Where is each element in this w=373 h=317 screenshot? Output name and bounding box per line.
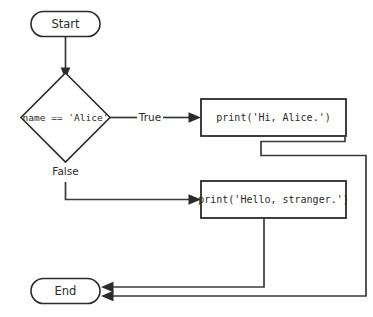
arrowhead-left-icon: [101, 282, 114, 292]
edge-print-hi-to-end: [101, 137, 366, 301]
print-hi-label: print('Hi, Alice.'): [216, 112, 330, 123]
edge-decision-false: [66, 148, 202, 205]
node-decision[interactable]: name == 'Alice': [21, 73, 110, 162]
arrowhead-right-icon: [189, 112, 202, 122]
edge-label-false-group: False: [52, 165, 78, 177]
node-start[interactable]: Start: [31, 12, 100, 37]
decision-label: name == 'Alice': [23, 112, 109, 123]
edge-label-false: False: [52, 165, 78, 177]
node-print-hello[interactable]: print('Hello, stranger.'): [198, 181, 349, 218]
start-label: Start: [51, 17, 80, 31]
end-label: End: [55, 284, 77, 298]
flowchart-canvas: Start name == 'Alice' print('Hi, Alice.'…: [0, 0, 373, 317]
edge-label-true-group: True: [138, 111, 161, 123]
edge-label-true: True: [138, 111, 161, 123]
node-print-hi[interactable]: print('Hi, Alice.'): [201, 99, 346, 136]
arrowhead-left-icon: [101, 291, 114, 301]
edge-print-hello-to-end-line: [110, 219, 264, 287]
node-end[interactable]: End: [31, 279, 100, 304]
edge-print-hello-to-end: [101, 219, 264, 292]
edge-decision-false-line: [66, 182, 193, 200]
flowchart-diagram: Start name == 'Alice' print('Hi, Alice.'…: [0, 0, 373, 317]
print-hello-label: print('Hello, stranger.'): [198, 194, 349, 205]
